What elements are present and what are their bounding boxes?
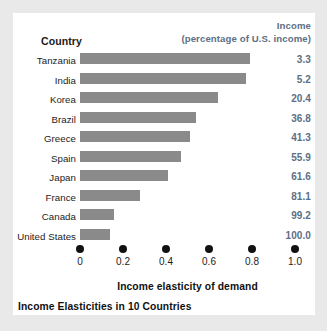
bar xyxy=(80,131,190,142)
table-row: Canada99.2 xyxy=(13,208,315,228)
income-percentage-value: 36.8 xyxy=(291,113,311,124)
income-percentage-value: 61.6 xyxy=(291,171,311,182)
table-row: Brazil36.8 xyxy=(13,111,315,131)
x-axis-title: Income elasticity of demand xyxy=(80,281,295,292)
country-label: Greece xyxy=(13,133,76,144)
bar xyxy=(80,112,196,123)
tick-dot-marker xyxy=(291,245,299,253)
income-percentage-value: 99.2 xyxy=(291,210,311,221)
country-label: Canada xyxy=(13,211,76,222)
bar-track xyxy=(80,189,295,202)
income-percentage-value: 81.1 xyxy=(291,191,311,202)
bar-track xyxy=(80,228,295,241)
tick-dot-marker xyxy=(119,245,127,253)
bar xyxy=(80,73,246,84)
income-percentage-value: 20.4 xyxy=(291,93,311,104)
bar-track xyxy=(80,91,295,104)
bar-track xyxy=(80,52,295,65)
x-axis: 00.20.40.60.81.0 xyxy=(13,245,315,281)
tick-label: 0.4 xyxy=(146,256,186,267)
bar xyxy=(80,209,114,220)
bar-track xyxy=(80,208,295,221)
bar xyxy=(80,190,140,201)
table-row: Spain55.9 xyxy=(13,150,315,170)
bar xyxy=(80,229,110,240)
tick-dot-marker xyxy=(248,245,256,253)
table-row: Greece41.3 xyxy=(13,130,315,150)
bar-track xyxy=(80,72,295,85)
tick-label: 0.8 xyxy=(232,256,272,267)
country-label: Korea xyxy=(13,94,76,105)
column-header-country: Country xyxy=(41,35,82,47)
table-row: Japan61.6 xyxy=(13,169,315,189)
figure-caption: Income Elasticities in 10 Countries xyxy=(18,301,191,312)
income-percentage-value: 100.0 xyxy=(285,230,311,241)
tick-label: 0.2 xyxy=(103,256,143,267)
bar xyxy=(80,170,168,181)
tick-label: 0.6 xyxy=(189,256,229,267)
tick-dot-marker xyxy=(76,245,84,253)
bar xyxy=(80,92,218,103)
country-label: Japan xyxy=(13,172,76,183)
bar xyxy=(80,53,250,64)
bar xyxy=(80,151,181,162)
table-row: India5.2 xyxy=(13,72,315,92)
income-percentage-value: 3.3 xyxy=(297,54,311,65)
column-header-income-subtitle: (percentage of U.S. income) xyxy=(181,33,311,44)
bar-track xyxy=(80,111,295,124)
country-label: United States xyxy=(13,231,76,242)
income-percentage-value: 5.2 xyxy=(297,74,311,85)
income-percentage-value: 41.3 xyxy=(291,132,311,143)
bar-track xyxy=(80,150,295,163)
tick-label: 1.0 xyxy=(275,256,315,267)
bar-track xyxy=(80,130,295,143)
table-row: France81.1 xyxy=(13,189,315,209)
bar-chart-plot-area: Tanzania3.3India5.2Korea20.4Brazil36.8Gr… xyxy=(13,52,315,248)
column-header-income-title: Income xyxy=(277,20,311,31)
country-label: India xyxy=(13,75,76,86)
table-header: Country Income (percentage of U.S. incom… xyxy=(13,18,315,52)
tick-label: 0 xyxy=(60,256,100,267)
country-label: Spain xyxy=(13,153,76,164)
income-percentage-value: 55.9 xyxy=(291,152,311,163)
table-row: Korea20.4 xyxy=(13,91,315,111)
tick-dot-marker xyxy=(162,245,170,253)
country-label: Brazil xyxy=(13,114,76,125)
figure-card: Country Income (percentage of U.S. incom… xyxy=(13,13,315,315)
bar-track xyxy=(80,169,295,182)
country-label: Tanzania xyxy=(13,55,76,66)
table-row: Tanzania3.3 xyxy=(13,52,315,72)
country-label: France xyxy=(13,192,76,203)
tick-dot-marker xyxy=(205,245,213,253)
